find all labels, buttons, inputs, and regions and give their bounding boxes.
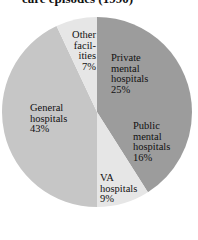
label-private-mental-hospitals: Private mental hospitals 25% — [111, 53, 148, 95]
label-public-mental-hospitals: Public mental hospitals 16% — [133, 121, 170, 163]
label-va-hospitals: VA hospitals 9% — [100, 173, 137, 205]
label-other-facilities: Other facil- ities 7% — [62, 30, 96, 72]
label-general-hospitals: General hospitals 43% — [30, 103, 67, 135]
